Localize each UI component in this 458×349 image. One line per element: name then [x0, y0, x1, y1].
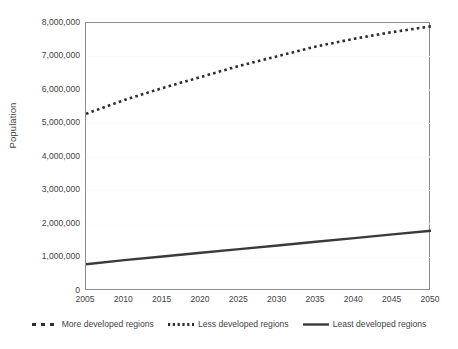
dotted-line-swatch: [168, 320, 194, 329]
legend-label: Less developed regions: [198, 320, 289, 329]
plot-svg: [86, 23, 431, 291]
legend-item[interactable]: Least developed regions: [303, 320, 427, 329]
gridlines: [86, 57, 431, 258]
population-projection-chart: Population 01,000,0002,000,0003,000,0004…: [0, 0, 458, 349]
series-layer: [86, 26, 431, 264]
series-line: [86, 26, 431, 113]
legend-item[interactable]: Less developed regions: [168, 320, 289, 329]
dashed-line-swatch: [32, 320, 58, 329]
x-axis-tick-label: 2050: [408, 295, 452, 304]
chart-legend: More developed regionsLess developed reg…: [0, 320, 458, 329]
legend-label: More developed regions: [62, 320, 154, 329]
legend-label: Least developed regions: [333, 320, 427, 329]
legend-item[interactable]: More developed regions: [32, 320, 154, 329]
series-line: [86, 231, 431, 265]
plot-area: [85, 22, 430, 290]
solid-line-swatch: [303, 320, 329, 329]
